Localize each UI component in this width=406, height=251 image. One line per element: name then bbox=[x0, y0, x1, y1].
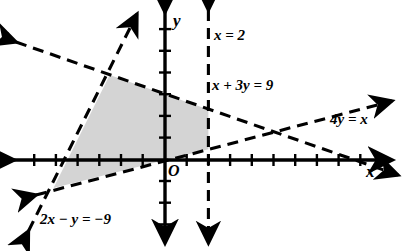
line-label-4y-equals-x: 4y = x bbox=[330, 112, 368, 127]
line-label-2x-minus-y: 2x − y = −9 bbox=[40, 212, 111, 227]
line-label-x-equals-2: x = 2 bbox=[214, 28, 245, 43]
graph-figure: y x O x = 2 x + 3y = 9 4y = x 2x − y = −… bbox=[0, 0, 406, 251]
line-label-x-plus-3y: x + 3y = 9 bbox=[212, 78, 273, 93]
y-axis-label: y bbox=[173, 12, 181, 29]
origin-label: O bbox=[168, 163, 180, 179]
x-axis-label: x bbox=[366, 163, 375, 180]
